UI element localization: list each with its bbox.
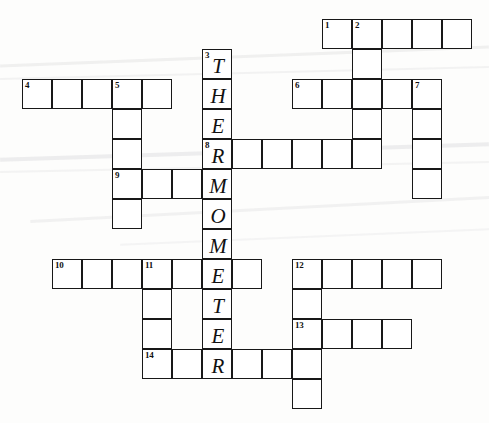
crossword-cell[interactable]: 14 bbox=[142, 349, 172, 379]
crossword-cell[interactable]: E bbox=[202, 319, 232, 349]
crossword-cell[interactable]: 3T bbox=[202, 49, 232, 79]
cell-number: 6 bbox=[295, 80, 299, 90]
crossword-cell[interactable] bbox=[412, 139, 442, 169]
crossword-cell[interactable]: 6 bbox=[292, 79, 322, 109]
crossword-cell[interactable] bbox=[322, 79, 352, 109]
crossword-cell[interactable] bbox=[442, 19, 472, 49]
crossword-cell[interactable] bbox=[352, 139, 382, 169]
crossword-cell[interactable] bbox=[412, 109, 442, 139]
cell-letter: R bbox=[203, 140, 233, 170]
cell-letter: R bbox=[203, 350, 233, 380]
cell-letter: E bbox=[203, 260, 233, 290]
cell-number: 13 bbox=[295, 320, 303, 330]
crossword-puzzle: 123T45H67E8R9MOM1011E12TE1314R bbox=[0, 0, 489, 423]
crossword-cell[interactable]: 4 bbox=[22, 79, 52, 109]
crossword-cell[interactable] bbox=[382, 79, 412, 109]
crossword-cell[interactable] bbox=[322, 319, 352, 349]
crossword-cell[interactable] bbox=[142, 79, 172, 109]
crossword-cell[interactable] bbox=[292, 139, 322, 169]
cell-letter: E bbox=[203, 110, 233, 140]
cell-letter: H bbox=[203, 80, 233, 110]
crossword-cell[interactable] bbox=[172, 349, 202, 379]
cell-number: 5 bbox=[115, 80, 119, 90]
crossword-cell[interactable] bbox=[232, 139, 262, 169]
crossword-cell[interactable]: 10 bbox=[52, 259, 82, 289]
crossword-cell[interactable] bbox=[112, 139, 142, 169]
crossword-cell[interactable] bbox=[292, 349, 322, 379]
crossword-cell[interactable]: M bbox=[202, 169, 232, 199]
crossword-cell[interactable]: 8R bbox=[202, 139, 232, 169]
crossword-cell[interactable]: 5 bbox=[112, 79, 142, 109]
crossword-cell[interactable] bbox=[352, 79, 382, 109]
crossword-cell[interactable] bbox=[412, 259, 442, 289]
crossword-cell[interactable] bbox=[322, 139, 352, 169]
crossword-cell[interactable]: T bbox=[202, 289, 232, 319]
crossword-cell[interactable]: E bbox=[202, 259, 232, 289]
cell-number: 9 bbox=[115, 170, 119, 180]
crossword-cell[interactable] bbox=[412, 169, 442, 199]
cell-number: 1 bbox=[325, 20, 329, 30]
crossword-cell[interactable]: 2 bbox=[352, 19, 382, 49]
crossword-cell[interactable] bbox=[382, 19, 412, 49]
crossword-cell[interactable]: R bbox=[202, 349, 232, 379]
crossword-cell[interactable] bbox=[142, 289, 172, 319]
crossword-cell[interactable]: 12 bbox=[292, 259, 322, 289]
crossword-cell[interactable] bbox=[382, 319, 412, 349]
cell-number: 7 bbox=[415, 80, 419, 90]
crossword-cell[interactable] bbox=[112, 199, 142, 229]
crossword-cell[interactable] bbox=[142, 319, 172, 349]
crossword-cell[interactable] bbox=[232, 259, 262, 289]
cell-number: 11 bbox=[145, 260, 153, 270]
crossword-cell[interactable] bbox=[172, 259, 202, 289]
crossword-cell[interactable] bbox=[292, 289, 322, 319]
crossword-cell[interactable] bbox=[262, 349, 292, 379]
crossword-cell[interactable] bbox=[352, 259, 382, 289]
crossword-cell[interactable] bbox=[262, 139, 292, 169]
crossword-cell[interactable] bbox=[292, 379, 322, 409]
crossword-cell[interactable]: H bbox=[202, 79, 232, 109]
crossword-cell[interactable]: 1 bbox=[322, 19, 352, 49]
cell-letter: M bbox=[203, 230, 233, 260]
crossword-cell[interactable]: M bbox=[202, 229, 232, 259]
cell-letter: M bbox=[203, 170, 233, 200]
cell-letter: O bbox=[203, 200, 233, 230]
crossword-cell[interactable] bbox=[352, 49, 382, 79]
cell-letter: T bbox=[203, 290, 233, 320]
crossword-cell[interactable] bbox=[352, 109, 382, 139]
crossword-cell[interactable] bbox=[412, 19, 442, 49]
cell-letter: T bbox=[203, 50, 233, 80]
crossword-cell[interactable] bbox=[172, 169, 202, 199]
crossword-cell[interactable]: E bbox=[202, 109, 232, 139]
crossword-cell[interactable] bbox=[112, 259, 142, 289]
crossword-cell[interactable] bbox=[232, 349, 262, 379]
crossword-cell[interactable] bbox=[82, 259, 112, 289]
cell-number: 14 bbox=[145, 350, 153, 360]
crossword-cell[interactable]: 9 bbox=[112, 169, 142, 199]
cell-number: 12 bbox=[295, 260, 303, 270]
crossword-cell[interactable]: 7 bbox=[412, 79, 442, 109]
crossword-cell[interactable] bbox=[142, 169, 172, 199]
cell-number: 4 bbox=[25, 80, 29, 90]
crossword-grid: 123T45H67E8R9MOM1011E12TE1314R bbox=[0, 0, 489, 423]
crossword-cell[interactable] bbox=[382, 259, 412, 289]
cell-number: 2 bbox=[355, 20, 359, 30]
crossword-cell[interactable] bbox=[52, 79, 82, 109]
crossword-cell[interactable]: 11 bbox=[142, 259, 172, 289]
crossword-cell[interactable]: O bbox=[202, 199, 232, 229]
crossword-cell[interactable]: 13 bbox=[292, 319, 322, 349]
cell-letter: E bbox=[203, 320, 233, 350]
crossword-cell[interactable] bbox=[322, 259, 352, 289]
crossword-cell[interactable] bbox=[82, 79, 112, 109]
cell-number: 10 bbox=[55, 260, 63, 270]
crossword-cell[interactable] bbox=[112, 109, 142, 139]
crossword-cell[interactable] bbox=[352, 319, 382, 349]
